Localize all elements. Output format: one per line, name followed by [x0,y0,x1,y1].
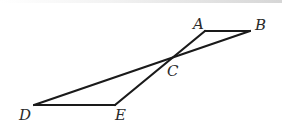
point-label-a: A [191,15,204,33]
point-label-e: E [114,106,126,124]
geometry-diagram: A B C D E [0,0,282,130]
segment-bd [34,31,250,105]
point-label-d: D [18,106,31,124]
segment-ae [115,31,205,105]
point-label-c: C [167,62,179,80]
point-label-b: B [254,16,266,34]
